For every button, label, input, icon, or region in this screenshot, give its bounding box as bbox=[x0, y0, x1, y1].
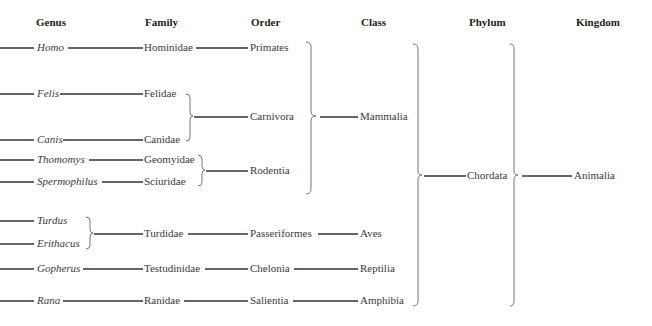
genus-label: Homo bbox=[37, 41, 64, 54]
order-label: Carnivora bbox=[250, 110, 294, 123]
order-label: Primates bbox=[250, 41, 289, 54]
genus-label: Felis bbox=[37, 87, 59, 100]
phylum-label: Chordata bbox=[467, 169, 507, 182]
family-label: Sciuridae bbox=[144, 175, 186, 188]
genus-label: Canis bbox=[37, 133, 63, 146]
order-label: Chelonia bbox=[250, 262, 290, 275]
order-label: Salientia bbox=[250, 294, 289, 307]
grouping-brackets bbox=[0, 0, 652, 326]
kingdom-label: Animalia bbox=[574, 169, 615, 182]
order-label: Rodentia bbox=[250, 164, 290, 177]
class-label: Reptilia bbox=[360, 262, 395, 275]
order-label: Passeriformes bbox=[250, 227, 312, 240]
family-label: Hominidae bbox=[144, 41, 193, 54]
genus-label: Spermophilus bbox=[37, 175, 98, 188]
class-label: Amphibia bbox=[360, 294, 404, 307]
family-label: Testudinidae bbox=[144, 262, 200, 275]
class-label: Aves bbox=[360, 227, 382, 240]
genus-label: Thomomys bbox=[37, 153, 85, 166]
genus-label: Gopherus bbox=[37, 262, 80, 275]
genus-label: Erithacus bbox=[37, 237, 80, 250]
family-label: Geomyidae bbox=[144, 153, 195, 166]
class-label: Mammalia bbox=[360, 110, 408, 123]
family-label: Felidae bbox=[144, 87, 176, 100]
genus-label: Rana bbox=[37, 294, 60, 307]
family-label: Ranidae bbox=[144, 294, 180, 307]
genus-label: Turdus bbox=[37, 214, 67, 227]
family-label: Turdidae bbox=[144, 227, 183, 240]
family-label: Canidae bbox=[144, 133, 180, 146]
